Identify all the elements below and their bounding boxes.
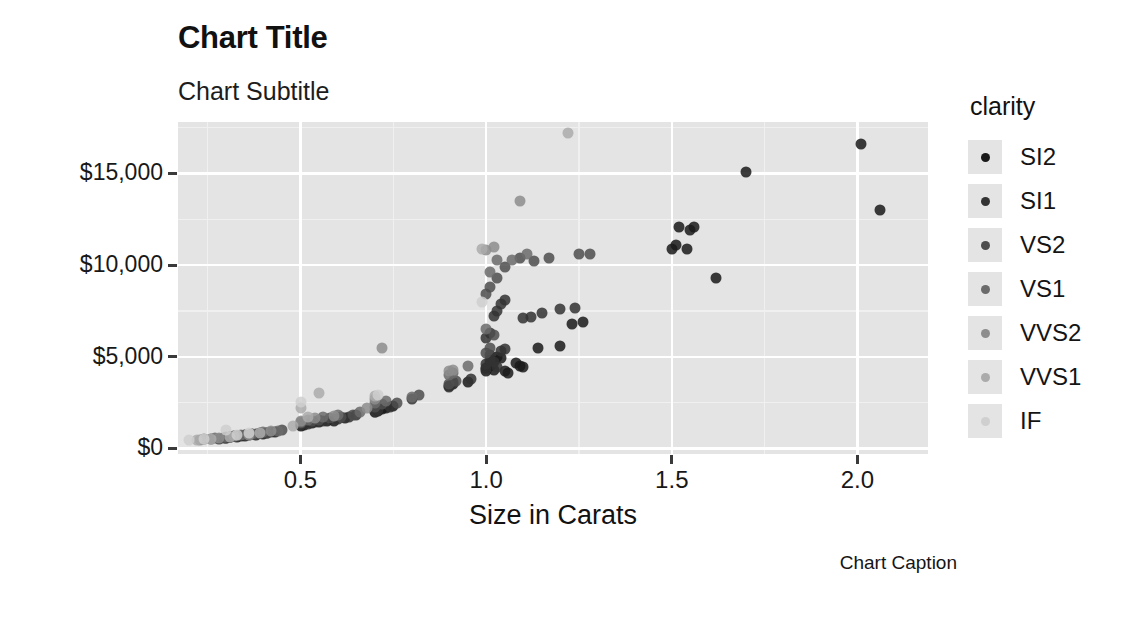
- data-point: [243, 428, 254, 439]
- data-point: [741, 166, 752, 177]
- x-axis-title: Size in Carats: [178, 500, 928, 531]
- x-axis-tick-label: 1.5: [627, 466, 717, 494]
- data-point: [874, 205, 885, 216]
- gridline-major-horizontal: [178, 447, 928, 449]
- data-point: [577, 316, 588, 327]
- legend-key-swatch: [968, 360, 1002, 394]
- legend-point-icon: [981, 285, 990, 294]
- data-point: [373, 390, 384, 401]
- legend-key-swatch: [968, 184, 1002, 218]
- legend-key-swatch: [968, 140, 1002, 174]
- chart-caption: Chart Caption: [0, 552, 957, 574]
- data-point: [295, 396, 306, 407]
- data-point: [198, 433, 209, 444]
- x-axis-tick-label: 2.0: [812, 466, 902, 494]
- data-point: [536, 307, 547, 318]
- legend-item-if[interactable]: IF: [968, 399, 1081, 443]
- data-point: [566, 318, 577, 329]
- y-axis-tick-label: $15,000: [0, 159, 163, 186]
- data-point: [522, 249, 533, 260]
- data-point: [562, 128, 573, 139]
- x-axis-tick-label: 1.0: [441, 466, 531, 494]
- legend-item-vs2[interactable]: VS2: [968, 223, 1081, 267]
- legend-item-si2[interactable]: SI2: [968, 135, 1081, 179]
- data-point: [533, 342, 544, 353]
- data-point: [573, 249, 584, 260]
- data-point: [570, 303, 581, 314]
- legend-key-swatch: [968, 228, 1002, 262]
- y-axis-tick: [168, 264, 177, 267]
- data-point: [377, 342, 388, 353]
- data-point: [406, 392, 417, 403]
- gridline-major-vertical: [856, 122, 858, 454]
- data-point: [544, 252, 555, 263]
- legend-point-icon: [981, 417, 990, 426]
- x-axis-tick: [299, 455, 302, 464]
- legend-key-swatch: [968, 316, 1002, 350]
- gridline-minor-horizontal: [178, 127, 928, 128]
- legend-item-vs1[interactable]: VS1: [968, 267, 1081, 311]
- data-point: [232, 429, 243, 440]
- data-point: [447, 364, 458, 375]
- data-point: [689, 221, 700, 232]
- data-point: [499, 344, 510, 355]
- data-point: [674, 221, 685, 232]
- legend-item-si1[interactable]: SI1: [968, 179, 1081, 223]
- legend-point-icon: [981, 329, 990, 338]
- y-axis-tick-label: $5,000: [0, 343, 163, 370]
- data-point: [525, 312, 536, 323]
- gridline-minor-horizontal: [178, 310, 928, 311]
- x-axis-tick-label: 0.5: [256, 466, 346, 494]
- y-axis-tick-label: $0: [0, 434, 163, 461]
- data-point: [555, 304, 566, 315]
- data-point: [462, 360, 473, 371]
- data-point: [856, 139, 867, 150]
- legend-point-icon: [981, 241, 990, 250]
- data-point: [221, 425, 232, 436]
- gridline-minor-horizontal: [178, 402, 928, 403]
- legend-item-label: VS2: [1020, 231, 1065, 259]
- gridline-major-horizontal: [178, 356, 928, 358]
- legend-key-swatch: [968, 404, 1002, 438]
- y-axis-tick: [168, 172, 177, 175]
- legend-item-label: SI1: [1020, 187, 1056, 215]
- legend-key-swatch: [968, 272, 1002, 306]
- y-axis-tick-label: $10,000: [0, 251, 163, 278]
- data-point: [507, 254, 518, 265]
- data-point: [477, 243, 488, 254]
- data-point: [681, 243, 692, 254]
- data-point: [503, 368, 514, 379]
- legend-item-label: SI2: [1020, 143, 1056, 171]
- legend-item-label: VVS2: [1020, 319, 1081, 347]
- data-point: [711, 272, 722, 283]
- legend-item-label: IF: [1020, 407, 1041, 435]
- legend-item-vvs1[interactable]: VVS1: [968, 355, 1081, 399]
- legend: clarity SI2SI1VS2VS1VVS2VVS1IF: [968, 92, 1081, 443]
- chart-subtitle: Chart Subtitle: [178, 77, 329, 106]
- gridline-minor-horizontal: [178, 219, 928, 220]
- legend-item-label: VVS1: [1020, 363, 1081, 391]
- data-point: [518, 361, 529, 372]
- data-point: [585, 249, 596, 260]
- y-axis-tick: [168, 355, 177, 358]
- legend-items: SI2SI1VS2VS1VVS2VVS1IF: [968, 135, 1081, 443]
- data-point: [362, 403, 373, 414]
- data-point: [514, 195, 525, 206]
- gridline-major-horizontal: [178, 172, 928, 174]
- scatter-chart: Chart Title Chart Subtitle Price ($) Siz…: [0, 0, 1127, 618]
- x-axis-tick: [670, 455, 673, 464]
- data-point: [328, 410, 339, 421]
- legend-point-icon: [981, 153, 990, 162]
- plot-panel: [178, 122, 928, 454]
- legend-point-icon: [981, 373, 990, 382]
- data-point: [477, 296, 488, 307]
- y-axis-tick: [168, 447, 177, 450]
- legend-item-label: VS1: [1020, 275, 1065, 303]
- legend-point-icon: [981, 197, 990, 206]
- data-point: [484, 267, 495, 278]
- data-point: [466, 373, 477, 384]
- legend-item-vvs2[interactable]: VVS2: [968, 311, 1081, 355]
- x-axis-tick: [856, 455, 859, 464]
- data-point: [492, 362, 503, 373]
- data-point: [254, 427, 265, 438]
